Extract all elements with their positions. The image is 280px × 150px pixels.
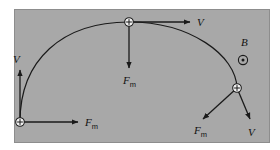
diagram-canvas: V Fm V — [0, 0, 280, 150]
positive-charge-icon-bottom-left — [16, 118, 25, 127]
physics-diagram-figure: V Fm V — [0, 0, 280, 150]
magnetic-field-label: B — [241, 36, 248, 48]
positive-charge-icon-right — [233, 84, 242, 93]
positive-charge-icon-top — [125, 18, 134, 27]
